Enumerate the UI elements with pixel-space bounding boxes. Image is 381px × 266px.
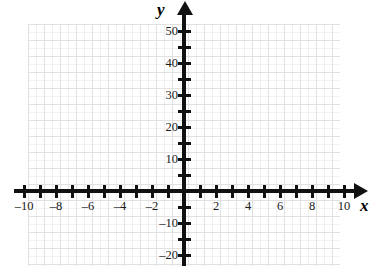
x-tick bbox=[295, 185, 298, 198]
y-tick-label: 20 bbox=[146, 121, 178, 134]
x-tick bbox=[55, 185, 58, 198]
x-tick-label: –2 bbox=[138, 200, 166, 213]
x-tick bbox=[327, 185, 330, 198]
x-tick bbox=[231, 185, 234, 198]
x-tick bbox=[23, 185, 26, 198]
x-tick bbox=[247, 185, 250, 198]
x-tick bbox=[119, 185, 122, 198]
y-tick-label: 30 bbox=[146, 89, 178, 102]
y-tick-label: 10 bbox=[146, 153, 178, 166]
x-tick bbox=[311, 185, 314, 198]
x-tick-label: 10 bbox=[330, 200, 358, 213]
x-tick bbox=[343, 185, 346, 198]
y-axis-arrow-icon bbox=[177, 1, 193, 15]
y-tick bbox=[178, 126, 191, 129]
y-tick-label: –10 bbox=[146, 217, 178, 230]
x-tick-label: 8 bbox=[298, 200, 326, 213]
y-tick bbox=[178, 62, 191, 65]
x-tick bbox=[103, 185, 106, 198]
x-tick-label: 2 bbox=[202, 200, 230, 213]
x-tick bbox=[279, 185, 282, 198]
x-tick-label: –4 bbox=[106, 200, 134, 213]
y-tick bbox=[178, 254, 191, 257]
x-tick bbox=[263, 185, 266, 198]
y-axis-label: y bbox=[157, 0, 165, 20]
x-tick bbox=[135, 185, 138, 198]
y-tick bbox=[178, 30, 191, 33]
y-tick-label: –20 bbox=[146, 249, 178, 262]
x-tick bbox=[151, 185, 154, 198]
x-tick bbox=[199, 185, 202, 198]
y-tick bbox=[178, 94, 191, 97]
y-tick bbox=[178, 78, 191, 81]
y-tick bbox=[178, 142, 191, 145]
x-tick bbox=[39, 185, 42, 198]
y-tick-label: 50 bbox=[146, 25, 178, 38]
coordinate-plane: –10–8–6–4–2246810 5040302010–10–20 x y bbox=[0, 0, 381, 266]
y-tick bbox=[178, 174, 191, 177]
y-axis-line bbox=[182, 12, 186, 266]
x-axis-label: x bbox=[360, 196, 369, 216]
x-tick-label: –10 bbox=[10, 200, 38, 213]
y-tick bbox=[178, 222, 191, 225]
y-tick-label: 40 bbox=[146, 57, 178, 70]
y-tick bbox=[178, 110, 191, 113]
x-axis-line bbox=[14, 189, 358, 193]
y-tick bbox=[178, 238, 191, 241]
x-tick-label: –6 bbox=[74, 200, 102, 213]
y-tick bbox=[178, 158, 191, 161]
x-tick-label: 4 bbox=[234, 200, 262, 213]
x-tick-label: 6 bbox=[266, 200, 294, 213]
x-tick bbox=[167, 185, 170, 198]
x-tick bbox=[71, 185, 74, 198]
x-tick bbox=[87, 185, 90, 198]
x-tick-label: –8 bbox=[42, 200, 70, 213]
y-tick bbox=[178, 46, 191, 49]
y-tick bbox=[178, 206, 191, 209]
x-tick bbox=[215, 185, 218, 198]
